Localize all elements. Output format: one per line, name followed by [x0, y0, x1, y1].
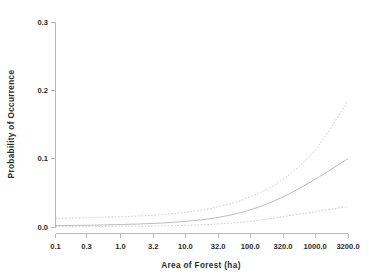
x-tick-label: 100.0: [241, 242, 260, 251]
x-axis: 0.10.31.03.210.032.0100.0320.01000.03200…: [50, 234, 359, 252]
confidence-interval-curve: [56, 101, 349, 219]
x-axis-title: Area of Forest (ha): [161, 261, 240, 270]
x-axis-ticks: 0.10.31.03.210.032.0100.0320.01000.03200…: [50, 234, 359, 252]
figure-canvas: 0.00.10.20.3 0.10.31.03.210.032.0100.032…: [0, 0, 369, 280]
x-tick-label: 0.1: [50, 242, 61, 251]
y-axis: 0.00.10.20.3: [37, 18, 55, 232]
x-tick-label: 10.0: [178, 242, 193, 251]
chart-plot: 0.00.10.20.3 0.10.31.03.210.032.0100.032…: [0, 0, 369, 280]
y-tick-label: 0.3: [37, 18, 48, 27]
y-axis-title: Probability of Occurrence: [7, 69, 16, 178]
y-tick-label: 0.1: [37, 154, 48, 163]
y-tick-label: 0.2: [37, 86, 48, 95]
confidence-interval-curve: [56, 207, 349, 227]
x-tick-label: 320.0: [274, 242, 293, 251]
x-tick-label: 3200.0: [336, 242, 359, 251]
y-axis-ticks: 0.00.10.20.3: [37, 18, 55, 232]
x-tick-label: 1000.0: [304, 242, 327, 251]
x-tick-label: 3.2: [148, 242, 159, 251]
x-tick-label: 32.0: [211, 242, 226, 251]
curve-group: [56, 101, 349, 227]
x-tick-label: 1.0: [115, 242, 126, 251]
fitted-curve: [56, 159, 349, 226]
x-tick-label: 0.3: [81, 242, 92, 251]
y-tick-label: 0.0: [37, 223, 48, 232]
